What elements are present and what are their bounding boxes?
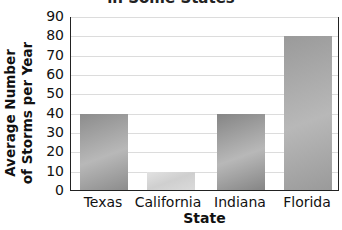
bar-florida [284, 36, 332, 190]
y-tick-label: 50 [34, 86, 64, 100]
y-tick-label: 60 [34, 67, 64, 81]
bar-california [147, 172, 195, 190]
y-tick-label: 80 [34, 28, 64, 42]
chart-title: in Some States [0, 0, 342, 7]
x-axis-label: State [70, 210, 339, 226]
bar-indiana [217, 114, 265, 190]
y-tick-label: 10 [34, 164, 64, 178]
bar-texas [80, 114, 128, 190]
y-tick-label: 20 [34, 144, 64, 158]
y-axis-label-line-1: Average Number [2, 38, 19, 188]
x-tick-label: California [128, 194, 208, 210]
y-tick-label: 70 [34, 48, 64, 62]
y-tick-label: 90 [34, 9, 64, 23]
y-tick-label: 0 [34, 183, 64, 197]
y-tick-label: 40 [34, 106, 64, 120]
gridline [71, 17, 338, 18]
plot-area [70, 17, 339, 191]
y-tick-label: 30 [34, 125, 64, 139]
x-tick-label: Florida [267, 194, 342, 210]
